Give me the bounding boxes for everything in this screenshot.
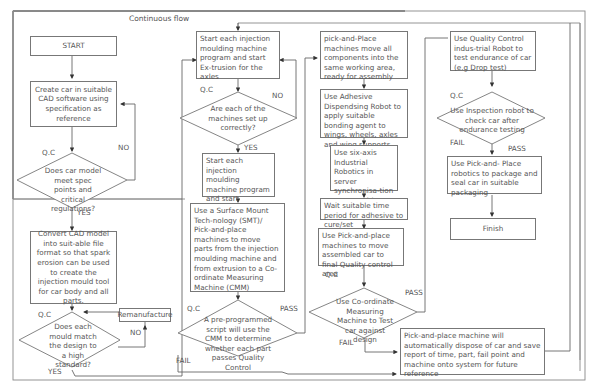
decision-text: A pre-programmed script will use the CMM… <box>198 315 278 373</box>
no-label: NO <box>118 143 129 152</box>
no-label: NO <box>272 91 283 100</box>
fail-label: FAIL <box>450 138 465 147</box>
pass-label: PASS <box>280 304 298 313</box>
pick-place-move-step: pick-and-Place machines move all compone… <box>320 31 408 79</box>
no-label: NO <box>130 328 141 337</box>
decision-text: Does car model meet spec points and crit… <box>44 166 102 214</box>
smt-pick-place-step: Use a Surface Mount Tech-nology (SMT)/ P… <box>190 203 285 292</box>
diagram-title: Continuous flow <box>129 14 189 23</box>
endurance-test-step: Use Quality Control indus-trial Robot to… <box>450 31 536 71</box>
adhesive-robot-step: Use Adhesive Dispendsing Robot to apply … <box>320 89 408 138</box>
qc-label: Q.C <box>42 148 55 157</box>
fail-label: FAIL <box>339 338 354 347</box>
qc-label: Q.C <box>38 310 51 319</box>
qc-label: Q.C <box>200 85 213 94</box>
yes-label: YES <box>48 367 62 376</box>
yes-label: YES <box>244 143 258 152</box>
pass-label: PASS <box>508 144 526 153</box>
move-to-qc-step: Use Pick-and-place machines to move asse… <box>318 228 404 266</box>
qc-label: Q.C <box>325 270 338 279</box>
convert-cad-step: Convert CAD model into suit-able file fo… <box>30 231 117 304</box>
decision-text: Does each mould match the design to a hi… <box>46 322 100 370</box>
pass-label: PASS <box>405 288 423 297</box>
wait-cure-step: Wait suitable time period for adhesive t… <box>320 198 408 220</box>
yes-label: YES <box>77 208 91 217</box>
remanufacture-step: Remanufacture <box>119 308 171 322</box>
start-injection-step-2: Start each injection moulding machine pr… <box>202 153 275 197</box>
create-cad-step: Create car in suitable CAD software usin… <box>30 81 117 127</box>
qc-label: Q.C <box>450 91 463 100</box>
decision-text: Use Inspection robot to check car after … <box>450 106 534 135</box>
finish-node: Finish <box>450 218 536 240</box>
six-axis-robot-step: Use six-axis Industrial Robotics in serv… <box>330 145 398 191</box>
start-injection-step-1: Start each injection moulding machine pr… <box>196 31 280 79</box>
decision-text: Are each of the machines set up correctl… <box>206 104 270 133</box>
dispose-report-step: Pick-and-place machine will automaticall… <box>400 328 545 375</box>
fail-label: FAIL <box>176 356 191 365</box>
start-node: START <box>30 36 117 56</box>
qc-label: Q.C <box>187 304 200 313</box>
package-step: Use Pick-and- Place robotics to package … <box>447 156 542 194</box>
